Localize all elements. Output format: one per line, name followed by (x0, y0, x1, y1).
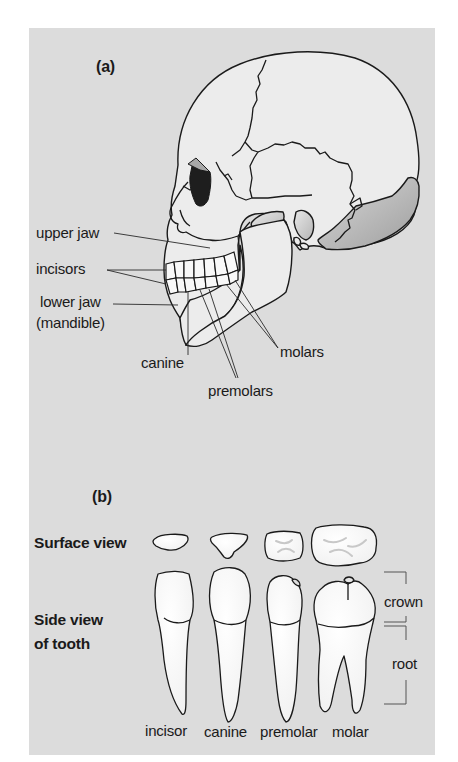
label-tooth-premolar: premolar (260, 723, 318, 740)
label-molars: molars (280, 343, 324, 360)
side-views (155, 568, 375, 722)
label-lower-jaw: lower jaw (40, 293, 101, 310)
premolar-surface (265, 531, 303, 561)
label-surface-view: Surface view (34, 534, 126, 551)
label-tooth-incisor: incisor (145, 722, 187, 739)
label-incisors: incisors (36, 260, 85, 277)
label-side-view: Side view (34, 611, 103, 628)
lower-jaw-leader (113, 304, 178, 305)
canine-side (210, 568, 251, 722)
canine-surface (211, 533, 248, 558)
part-b-label: (b) (92, 488, 112, 505)
label-mandible: (mandible) (36, 314, 105, 331)
incisor-side (155, 571, 193, 714)
molar-side (314, 581, 375, 713)
part-a-label: (a) (96, 58, 115, 75)
surface-views (153, 525, 377, 566)
incisors-leader-2 (107, 270, 166, 284)
label-tooth-molar: molar (332, 723, 369, 740)
label-tooth-canine: canine (204, 723, 247, 740)
label-premolars: premolars (208, 382, 273, 399)
crown-root-brackets (384, 572, 406, 704)
label-canine: canine (141, 354, 184, 371)
molar-surface (312, 525, 377, 566)
label-root: root (392, 655, 417, 672)
incisor-surface (153, 534, 188, 550)
label-of-tooth: of tooth (34, 635, 90, 652)
label-upper-jaw: upper jaw (36, 224, 99, 241)
label-crown: crown (384, 593, 423, 610)
premolar-side (267, 576, 302, 722)
